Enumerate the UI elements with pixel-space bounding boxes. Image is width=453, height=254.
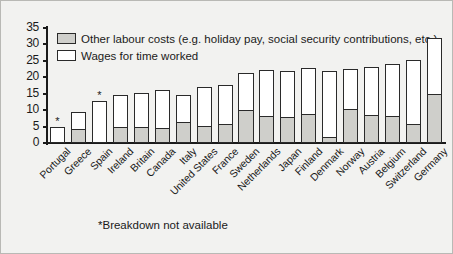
bar [113, 95, 128, 143]
bar-segment-other-labour-costs [344, 109, 357, 142]
bar-segment-other-labour-costs [135, 127, 148, 142]
bar [406, 60, 421, 143]
bar [92, 101, 107, 143]
bar-slot [427, 38, 442, 143]
bar [134, 93, 149, 143]
bar [197, 87, 212, 143]
bar-slot: * [50, 127, 65, 143]
bar-segment-other-labour-costs [407, 124, 420, 142]
bar [385, 64, 400, 143]
bar-segment-other-labour-costs [72, 129, 85, 142]
bar [259, 70, 274, 143]
bar-segment-other-labour-costs [302, 114, 315, 142]
bar-slot [364, 67, 379, 143]
y-axis-tick-label: 15 [26, 86, 39, 100]
bar-slot [343, 69, 358, 143]
bar [301, 68, 316, 143]
bar-segment-other-labour-costs [386, 116, 399, 142]
bar [71, 112, 86, 143]
chart-footnote: *Breakdown not available [98, 219, 228, 231]
y-axis-tick-label: 0 [33, 135, 39, 149]
y-axis-tick-label: 5 [33, 119, 39, 133]
bar-segment-other-labour-costs [156, 128, 169, 142]
bar-segment-other-labour-costs [177, 122, 190, 142]
bar-segment-other-labour-costs [281, 117, 294, 142]
bar-slot [280, 71, 295, 143]
bar-segment-other-labour-costs [219, 124, 232, 142]
bar-slot [385, 64, 400, 143]
bar-asterisk-marker: * [97, 92, 101, 98]
bar-slot [155, 90, 170, 143]
bar-slot [322, 71, 337, 143]
bar-series-group: ** [47, 28, 445, 143]
bar [343, 69, 358, 143]
bar-slot [238, 73, 253, 143]
bar-segment-other-labour-costs [365, 115, 378, 142]
bar-segment-other-labour-costs [114, 127, 127, 142]
bar [427, 38, 442, 143]
bar [322, 71, 337, 143]
bar-segment-other-labour-costs [323, 137, 336, 142]
bar-slot [301, 68, 316, 143]
bar-slot [259, 70, 274, 143]
bar [238, 73, 253, 143]
bar-slot [71, 112, 86, 143]
chart-figure: Other labour costs (e.g. holiday pay, so… [0, 0, 453, 254]
plot-area: ** [47, 28, 445, 143]
bar [176, 95, 191, 143]
bar-slot [406, 60, 421, 143]
y-axis-tick-label: 20 [26, 69, 39, 83]
bar-slot: * [92, 101, 107, 143]
bar-slot [134, 93, 149, 143]
y-axis-tick-label: 25 [26, 53, 39, 67]
y-axis-tick-label: 10 [26, 102, 39, 116]
y-axis: 05101520253035 [1, 28, 47, 143]
bar [50, 127, 65, 143]
bar-segment-other-labour-costs [260, 116, 273, 142]
y-axis-tick-label: 30 [26, 36, 39, 50]
bar [364, 67, 379, 143]
bar-segment-other-labour-costs [239, 110, 252, 142]
bar [280, 71, 295, 143]
bar [155, 90, 170, 143]
x-axis-labels: PortugalGreeceSpainIrelandBritainCanadaI… [47, 145, 447, 225]
bar-slot [113, 95, 128, 143]
bar [218, 85, 233, 143]
y-axis-tick-label: 35 [26, 20, 39, 34]
bar-segment-other-labour-costs [428, 94, 441, 142]
bar-slot [218, 85, 233, 143]
bar-slot [176, 95, 191, 143]
bar-asterisk-marker: * [55, 118, 59, 124]
bar-slot [197, 87, 212, 143]
bar-segment-other-labour-costs [198, 126, 211, 142]
